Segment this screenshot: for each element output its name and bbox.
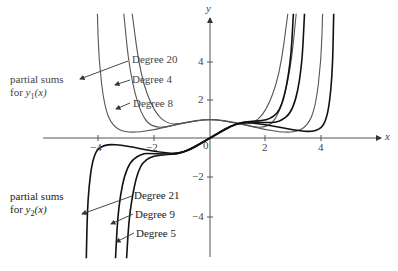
y-axis-label: y (206, 2, 211, 14)
x-axis-label: x (385, 130, 390, 142)
y-tick-4: 4 (198, 55, 204, 67)
y-tick-2: 2 (198, 93, 204, 105)
x-tick-2: 2 (262, 141, 268, 153)
y2-arg: (x) (34, 203, 46, 215)
legend-degree-4: Degree 4 (132, 73, 172, 86)
y1-prefix: for (10, 86, 26, 98)
legend-degree-9: Degree 9 (135, 208, 175, 221)
legend-degree-5: Degree 5 (136, 227, 176, 240)
x-tick-minus4: −4 (90, 141, 102, 153)
y2-prefix: for (10, 203, 26, 215)
y2-group-line1: partial sums (10, 190, 63, 203)
x-tick-minus2: −2 (146, 141, 158, 153)
y1-group-line1: partial sums (10, 73, 63, 86)
x-tick-4: 4 (318, 141, 324, 153)
legend-degree-20: Degree 20 (132, 53, 178, 66)
y2-group-line2: for y2(x) (10, 203, 63, 220)
y1-arg: (x) (34, 86, 46, 98)
chart-canvas (0, 0, 398, 271)
y1-group-line2: for y1(x) (10, 86, 63, 103)
y1-group-label: partial sums for y1(x) (10, 73, 63, 103)
x-tick-0: 0 (203, 139, 209, 151)
y-tick-minus4: −4 (192, 210, 204, 222)
legend-degree-21: Degree 21 (134, 189, 180, 202)
y-tick-minus2: −2 (192, 170, 204, 182)
legend-degree-8: Degree 8 (133, 97, 173, 110)
y2-group-label: partial sums for y2(x) (10, 190, 63, 220)
